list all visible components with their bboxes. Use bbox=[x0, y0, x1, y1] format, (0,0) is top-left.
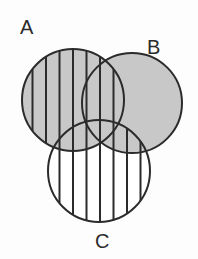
set-label-a: A bbox=[20, 17, 34, 37]
set-label-c: C bbox=[95, 231, 110, 251]
venn-diagram-canvas bbox=[0, 0, 198, 259]
set-label-b: B bbox=[147, 37, 161, 57]
venn-diagram-figure: A B C bbox=[0, 0, 198, 259]
